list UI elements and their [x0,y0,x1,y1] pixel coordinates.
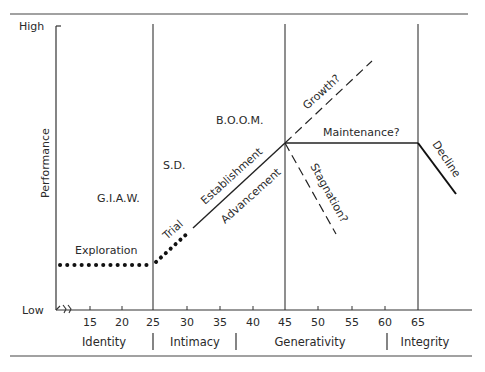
axis-break-icon [56,305,71,313]
tick-45: 45 [278,316,292,329]
low-label: Low [22,304,44,317]
tick-55: 55 [345,316,359,329]
stage-integrity: Integrity [401,335,450,349]
label-exploration: Exploration [75,244,138,257]
stage-generativity: Generativity [274,335,345,349]
tick-60: 60 [378,316,392,329]
tick-65: 65 [411,316,425,329]
tick-50: 50 [311,316,325,329]
label-growth: Growth? [300,72,343,112]
high-label: High [19,20,44,33]
label-stagnation: Stagnation? [307,161,350,225]
y-axis-title: Performance [39,128,52,198]
label-maintenance: Maintenance? [323,126,400,139]
label-decline: Decline [430,138,464,180]
label-sd: S.D. [163,159,185,172]
label-giaw: G.I.A.W. [97,192,140,205]
tick-15: 15 [83,316,97,329]
tick-40: 40 [246,316,260,329]
tick-20: 20 [115,316,129,329]
tick-30: 30 [180,316,194,329]
label-boom: B.O.O.M. [216,114,263,127]
tick-35: 35 [213,316,227,329]
stage-identity: Identity [82,335,126,349]
career-stages-diagram: High Low Performance 15 20 25 30 35 40 4… [0,0,485,372]
tick-25: 25 [146,316,160,329]
stage-intimacy: Intimacy [170,335,220,349]
